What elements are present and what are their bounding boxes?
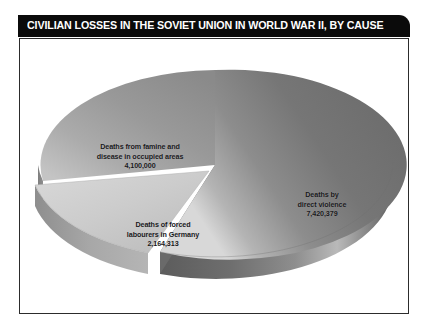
slice-label-line2: disease in occupied areas [97, 152, 184, 161]
slice-label-line1: Deaths by [305, 190, 338, 199]
pie-chart-svg [19, 38, 409, 314]
chart-title-bar: CIVILIAN LOSSES IN THE SOVIET UNION IN W… [18, 15, 410, 37]
slice-label-line2: direct violence [298, 200, 347, 209]
slice-value: 4,100,000 [65, 161, 215, 171]
slice-value: 2,164,313 [93, 239, 233, 249]
slice-label-direct-violence: Deaths by direct violence 7,420,379 [266, 190, 378, 219]
slice-label-famine-disease: Deaths from famine and disease in occupi… [65, 142, 215, 171]
page-title: CIVILIAN LOSSES IN THE SOVIET UNION IN W… [27, 20, 383, 31]
slice-label-line1: Deaths from famine and [100, 142, 180, 151]
slice-label-line2: labourers in Germany [127, 230, 199, 239]
slice-value: 7,420,379 [266, 209, 378, 219]
pie-chart: Deaths by direct violence 7,420,379 Deat… [19, 38, 409, 314]
slice-label-forced-labourers: Deaths of forced labourers in Germany 2,… [93, 220, 233, 249]
slice-label-line1: Deaths of forced [135, 220, 190, 229]
chart-figure: CIVILIAN LOSSES IN THE SOVIET UNION IN W… [0, 0, 427, 331]
